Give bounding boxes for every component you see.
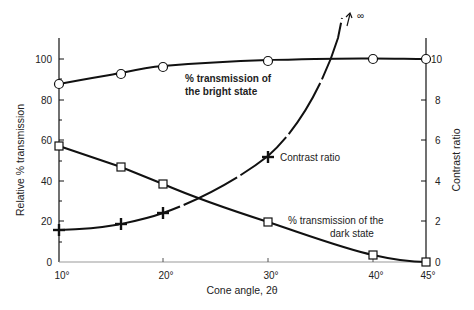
y2-tick-4: 4 xyxy=(435,176,441,187)
right-tick-labels: 0 2 4 6 8 10 xyxy=(431,54,443,268)
right-ticks xyxy=(421,59,426,221)
y-tick-20: 20 xyxy=(41,216,53,227)
contrast-ratio-markers xyxy=(53,151,274,236)
bright-state-annotation-line2: the bright state xyxy=(185,86,258,97)
x-axis-title: Cone angle, 2θ xyxy=(206,284,277,296)
right-y-axis-title: Contrast ratio xyxy=(450,128,462,191)
dark-state-annotation-line1: % transmission of the xyxy=(288,215,384,226)
infinity-arrow-icon xyxy=(346,13,352,26)
x-tick-30: 30° xyxy=(263,270,278,281)
y2-tick-8: 8 xyxy=(435,95,441,106)
contrast-ratio-line xyxy=(59,18,342,230)
y2-tick-0: 0 xyxy=(435,257,441,268)
dark-state-markers xyxy=(55,142,430,266)
y2-tick-2: 2 xyxy=(435,216,441,227)
x-tick-40: 40° xyxy=(368,270,383,281)
infinity-label: ∞ xyxy=(357,10,364,21)
bright-state-annotation-line1: % transmission of xyxy=(185,73,272,84)
dark-state-annotation-line2: dark state xyxy=(330,228,374,239)
y-tick-40: 40 xyxy=(41,176,53,187)
dark-state-line xyxy=(59,146,426,262)
y-tick-60: 60 xyxy=(41,135,53,146)
y-tick-80: 80 xyxy=(41,95,53,106)
x-tick-20: 20° xyxy=(158,270,173,281)
left-tick-labels: 0 20 40 60 80 100 xyxy=(35,54,52,268)
left-y-axis-title: Relative % transmission xyxy=(14,104,26,216)
x-tick-10: 10° xyxy=(54,270,69,281)
chart: 0 20 40 60 80 100 0 2 4 6 8 10 10° 20° 3… xyxy=(0,0,474,310)
y-tick-100: 100 xyxy=(35,54,52,65)
x-tick-45: 45° xyxy=(420,270,435,281)
y2-tick-6: 6 xyxy=(435,135,441,146)
contrast-ratio-annotation: Contrast ratio xyxy=(280,152,340,163)
y-tick-0: 0 xyxy=(46,257,52,268)
y2-tick-10: 10 xyxy=(431,54,443,65)
x-tick-labels: 10° 20° 30° 40° 45° xyxy=(54,270,435,281)
